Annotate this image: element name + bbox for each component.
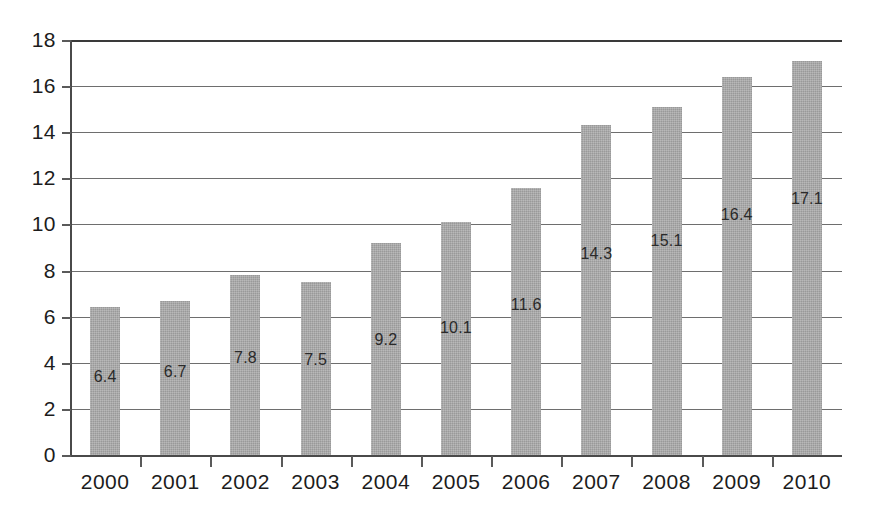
x-tick-mark-6	[561, 456, 563, 467]
plot-area: 6.46.77.87.59.210.111.614.315.116.417.1	[70, 40, 842, 455]
bar-chart: 024681012141618 6.46.77.87.59.210.111.61…	[0, 0, 871, 512]
y-tick-label-12: 12	[10, 167, 56, 188]
gridline-0	[70, 455, 842, 457]
y-axis-tick-labels: 024681012141618	[0, 0, 56, 512]
bar-2004[interactable]	[371, 243, 401, 455]
bar-2003[interactable]	[301, 282, 331, 455]
y-tick-mark-12	[62, 178, 71, 180]
bar-value-label-2006: 11.6	[498, 297, 554, 313]
y-tick-mark-6	[62, 317, 71, 319]
y-tick-mark-18	[62, 40, 71, 42]
y-tick-label-8: 8	[10, 260, 56, 281]
x-tick-label-2009: 2009	[702, 470, 772, 494]
bar-2010[interactable]	[792, 61, 822, 455]
bar-value-label-2009: 16.4	[709, 207, 765, 223]
x-tick-mark-3	[351, 456, 353, 467]
bar-2006[interactable]	[511, 188, 541, 455]
x-tick-mark-1	[210, 456, 212, 467]
y-tick-mark-2	[62, 409, 71, 411]
x-tick-label-2010: 2010	[772, 470, 842, 494]
x-tick-label-2000: 2000	[70, 470, 140, 494]
x-tick-label-2003: 2003	[281, 470, 351, 494]
bar-2009[interactable]	[722, 77, 752, 455]
bar-2008[interactable]	[652, 107, 682, 455]
x-tick-mark-5	[491, 456, 493, 467]
y-tick-label-6: 6	[10, 306, 56, 327]
x-tick-mark-7	[631, 456, 633, 467]
y-tick-label-2: 2	[10, 398, 56, 419]
y-tick-label-14: 14	[10, 121, 56, 142]
y-tick-mark-16	[62, 86, 71, 88]
y-tick-label-16: 16	[10, 75, 56, 96]
y-tick-label-18: 18	[10, 29, 56, 50]
x-tick-mark-0	[140, 456, 142, 467]
x-tick-mark-8	[702, 456, 704, 467]
bar-value-label-2003: 7.5	[288, 352, 344, 368]
bar-value-label-2000: 6.4	[77, 369, 133, 385]
y-tick-label-10: 10	[10, 213, 56, 234]
y-tick-mark-4	[62, 363, 71, 365]
y-axis-line	[70, 40, 72, 457]
gridline-18	[70, 40, 842, 42]
bar-value-label-2002: 7.8	[217, 350, 273, 366]
bar-2005[interactable]	[441, 222, 471, 455]
bar-value-label-2010: 17.1	[779, 191, 835, 207]
x-tick-label-2001: 2001	[140, 470, 210, 494]
bar-2007[interactable]	[581, 125, 611, 455]
y-tick-mark-8	[62, 271, 71, 273]
x-tick-label-2002: 2002	[210, 470, 280, 494]
x-tick-label-2005: 2005	[421, 470, 491, 494]
x-tick-label-2006: 2006	[491, 470, 561, 494]
x-tick-mark-9	[772, 456, 774, 467]
bar-value-label-2001: 6.7	[147, 364, 203, 380]
y-tick-mark-14	[62, 132, 71, 134]
bar-value-label-2004: 9.2	[358, 332, 414, 348]
y-tick-label-0: 0	[10, 444, 56, 465]
x-tick-mark-2	[281, 456, 283, 467]
bar-value-label-2007: 14.3	[568, 246, 624, 262]
y-tick-mark-10	[62, 224, 71, 226]
x-tick-mark-4	[421, 456, 423, 467]
x-tick-label-2007: 2007	[561, 470, 631, 494]
y-tick-label-4: 4	[10, 352, 56, 373]
x-tick-label-2004: 2004	[351, 470, 421, 494]
bar-value-label-2008: 15.1	[639, 233, 695, 249]
bar-value-label-2005: 10.1	[428, 320, 484, 336]
y-tick-mark-0	[62, 455, 71, 457]
x-tick-label-2008: 2008	[632, 470, 702, 494]
